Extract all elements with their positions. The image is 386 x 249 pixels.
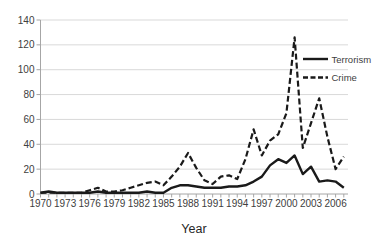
x-tick-label: 1985 — [152, 198, 175, 209]
line-chart: 0204060801001201401970197319761979198219… — [0, 0, 386, 249]
x-tick-label: 1970 — [29, 198, 52, 209]
y-tick-label: 100 — [18, 64, 35, 75]
x-axis-title: Year — [40, 222, 348, 236]
legend-terrorism-label: Terrorism — [332, 54, 372, 65]
y-tick-label: 20 — [23, 164, 35, 175]
legend-crime-label: Crime — [332, 72, 357, 83]
x-tick-label: 1991 — [202, 198, 225, 209]
chart-container: 0204060801001201401970197319761979198219… — [0, 0, 386, 249]
x-tick-label: 1976 — [79, 198, 102, 209]
x-tick-label: 1979 — [103, 198, 126, 209]
y-tick-label: 60 — [23, 114, 35, 125]
x-tick-label: 1988 — [177, 198, 200, 209]
y-tick-label: 120 — [18, 39, 35, 50]
x-tick-label: 1994 — [226, 198, 249, 209]
x-tick-label: 2003 — [300, 198, 323, 209]
x-tick-label: 1982 — [128, 198, 151, 209]
x-tick-label: 1997 — [251, 198, 274, 209]
x-tick-label: 1973 — [54, 198, 77, 209]
y-tick-label: 80 — [23, 89, 35, 100]
x-tick-label: 2006 — [324, 198, 347, 209]
y-tick-label: 140 — [18, 15, 35, 26]
x-tick-label: 2000 — [275, 198, 298, 209]
y-tick-label: 40 — [23, 139, 35, 150]
